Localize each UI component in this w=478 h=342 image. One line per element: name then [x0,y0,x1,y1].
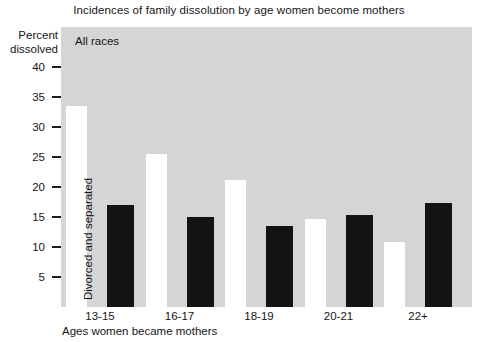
bar-white-16-17 [146,154,167,307]
x-axis-label: Ages women became mothers [62,325,217,337]
bar-white-20-21 [305,219,326,307]
x-tick-label-20-21: 20-21 [299,310,379,322]
y-tick-label: 40 [5,61,45,73]
x-tick-label-18-19: 18-19 [219,310,299,322]
x-tick-label-13-15: 13-15 [60,310,140,322]
x-tick-label-16-17: 16-17 [140,310,220,322]
plot-area: All races Divorced and separated [61,27,472,307]
chart-root: Incidences of family dissolution by age … [0,0,478,342]
y-tick-35: 35 [0,91,61,103]
y-axis-label-line1: Percent [2,28,58,42]
y-tick-label: 5 [5,271,45,283]
y-tick-label: 15 [5,211,45,223]
bar-black-22+ [425,203,452,307]
y-tick-mark [52,216,61,218]
y-tick-30: 30 [0,121,61,133]
y-axis-label: Percent dissolved [2,28,58,56]
bar-white-22+ [384,242,405,307]
y-tick-10: 10 [0,241,61,253]
y-axis-label-line2: dissolved [2,42,58,56]
y-tick-25: 25 [0,151,61,163]
y-tick-mark [52,156,61,158]
y-tick-label: 20 [5,181,45,193]
y-tick-mark [52,66,61,68]
y-tick-label: 25 [5,151,45,163]
bar-annotation-divorced-and-separated: Divorced and separated [82,178,94,300]
y-tick-mark [52,96,61,98]
series-note: All races [75,35,119,47]
y-tick-mark [52,246,61,248]
bar-black-20-21 [346,215,373,307]
y-tick-label: 10 [5,241,45,253]
y-tick-label: 35 [5,91,45,103]
y-tick-mark [52,186,61,188]
y-tick-label: 30 [5,121,45,133]
chart-title: Incidences of family dissolution by age … [0,4,478,16]
y-tick-20: 20 [0,181,61,193]
bar-white-18-19 [225,180,246,307]
x-tick-label-22+: 22+ [378,310,458,322]
y-tick-15: 15 [0,211,61,223]
bar-black-18-19 [266,226,293,307]
bar-black-13-15 [107,205,134,307]
y-tick-5: 5 [0,271,61,283]
y-tick-mark [52,126,61,128]
y-tick-mark [52,276,61,278]
y-tick-40: 40 [0,61,61,73]
bar-black-16-17 [187,217,214,307]
